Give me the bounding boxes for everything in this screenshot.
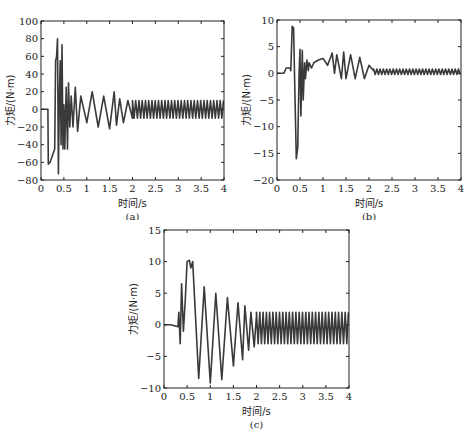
chart-b-canvas: 00.511.522.533.54−20−15−10−50510时间/s力矩/(… [232,0,469,220]
y-tick-label: 80 [25,33,38,44]
x-tick-label: 0 [274,183,280,194]
y-tick-label: −10 [253,121,274,132]
y-tick-label: 10 [261,15,274,26]
y-tick-label: −40 [17,139,38,150]
y-tick-label: 100 [19,16,38,27]
y-tick-label: 10 [148,256,161,267]
panel-caption: (c) [250,419,264,430]
x-tick-label: 3 [175,183,181,194]
x-tick-label: 3.5 [193,183,209,194]
x-tick-label: 4 [346,391,352,402]
y-tick-label: 15 [148,225,161,236]
x-tick-label: 3 [300,391,306,402]
y-tick-label: −15 [253,148,274,159]
x-tick-label: 2.5 [384,183,400,194]
chart-a-canvas: 00.511.522.533.54−80−60−40−2002040608010… [0,0,240,220]
y-axis-title: 力矩/(N·m) [240,74,252,126]
y-tick-label: −10 [140,383,161,394]
y-tick-label: −20 [253,175,274,186]
y-tick-label: −80 [17,175,38,186]
y-axis-title: 力矩/(N·m) [127,283,139,335]
x-tick-label: 1.5 [225,391,241,402]
x-tick-label: 4 [458,183,464,194]
y-tick-label: 40 [25,69,38,80]
x-tick-label: 4 [221,183,227,194]
y-tick-label: 60 [25,51,38,62]
series-line [164,260,348,383]
x-tick-label: 3.5 [318,391,334,402]
series-line [277,26,460,158]
x-tick-label: 0.5 [292,183,308,194]
x-axis-title: 时间/s [355,197,384,209]
x-tick-label: 1.5 [338,183,354,194]
x-tick-label: 2.5 [272,391,288,402]
y-tick-label: −5 [259,95,274,106]
chart-b: 00.511.522.533.54−20−15−10−50510时间/s力矩/(… [232,0,469,220]
x-tick-label: 1 [84,183,90,194]
x-tick-label: 0 [161,391,167,402]
y-axis-title: 力矩/(N·m) [4,75,16,127]
plot-frame [277,20,461,180]
x-axis-title: 时间/s [242,405,271,417]
chart-c: 00.511.522.533.54−10−5051015时间/s力矩/(N·m)… [120,218,370,437]
plot-frame [164,230,349,388]
x-tick-label: 1 [320,183,326,194]
y-tick-label: 0 [32,104,38,115]
chart-a: 00.511.522.533.54−80−60−40−2002040608010… [0,0,240,220]
x-tick-label: 3.5 [430,183,446,194]
y-tick-label: −5 [146,351,161,362]
x-axis-title: 时间/s [118,197,147,209]
x-tick-label: 2 [253,391,259,402]
chart-c-canvas: 00.511.522.533.54−10−5051015时间/s力矩/(N·m)… [120,218,370,437]
y-tick-label: −20 [17,122,38,133]
series-line [41,39,224,174]
x-tick-label: 0.5 [179,391,195,402]
x-tick-label: 1 [207,391,213,402]
y-tick-label: 5 [155,288,161,299]
y-tick-label: −60 [17,157,38,168]
x-tick-label: 1.5 [102,183,118,194]
x-tick-label: 0 [38,183,44,194]
x-tick-label: 2 [129,183,135,194]
x-tick-label: 2.5 [147,183,163,194]
x-tick-label: 0.5 [56,183,72,194]
y-tick-label: 0 [155,319,161,330]
x-tick-label: 2 [366,183,372,194]
y-tick-label: 0 [268,68,274,79]
y-tick-label: 5 [268,41,274,52]
x-tick-label: 3 [412,183,418,194]
y-tick-label: 20 [25,86,38,97]
